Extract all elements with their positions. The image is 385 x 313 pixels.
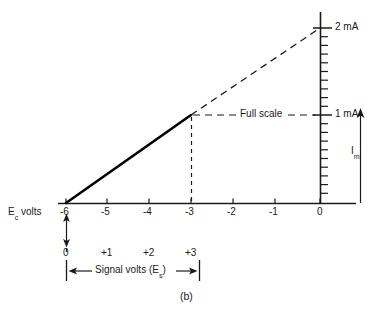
signal-tick-label-0: 0 (63, 248, 69, 258)
x-axis-title-subscript: c (15, 214, 19, 221)
signal-volts-title-prefix: Signal volts (E (95, 264, 159, 275)
signal-tick-label-plus2: +2 (143, 248, 154, 258)
x-tick-label-minus3: -3 (185, 207, 194, 217)
x-tick-label-minus4: -4 (143, 207, 152, 217)
x-axis-title: Ec volts (8, 207, 42, 219)
figure-caption: (b) (180, 291, 193, 302)
y-axis-title: Im (351, 146, 360, 158)
signal-volts-title-subscript: s (159, 272, 163, 279)
y-axis-title-subscript: m (354, 153, 360, 160)
figure-container: 2 mA 1 mA Full scale Im Ec volts -6 -5 -… (0, 0, 385, 313)
signal-tick-label-plus1: +1 (101, 248, 112, 258)
plot-canvas (0, 0, 385, 313)
x-tick-label-minus6: -6 (60, 207, 69, 217)
x-axis-title-suffix: volts (18, 206, 41, 217)
x-tick-label-minus1: -1 (269, 207, 278, 217)
series-extrapolation-dashed (191, 28, 320, 115)
x-tick-label-minus5: -5 (101, 207, 110, 217)
y-tick-label-1ma: 1 mA (335, 109, 358, 119)
y-tick-label-2ma: 2 mA (335, 22, 358, 32)
signal-volts-axis-title: Signal volts (Es) (95, 265, 166, 277)
x-tick-label-minus2: -2 (227, 207, 236, 217)
x-tick-label-zero: 0 (317, 207, 323, 217)
signal-volts-title-suffix: ) (162, 264, 165, 275)
series-operating-range-solid (66, 115, 191, 203)
signal-tick-label-plus3: +3 (185, 248, 196, 258)
annotation-full-scale-label: Full scale (240, 109, 282, 119)
annotation-bias-offset-arrow (63, 214, 70, 248)
x-axis-title-main: E (8, 206, 15, 217)
